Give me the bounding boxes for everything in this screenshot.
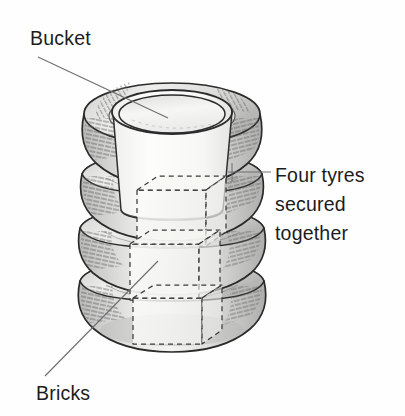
label-four-tyres-secured-together: Four tyres secured together (275, 161, 400, 248)
bricks (130, 176, 226, 344)
label-tyres-line-3: together (275, 219, 400, 248)
label-tyres-line-1: Four tyres (275, 161, 400, 190)
label-bucket: Bucket (30, 24, 91, 52)
label-bricks: Bricks (36, 379, 90, 407)
label-tyres-line-2: secured (275, 190, 400, 219)
brick-lower (133, 285, 222, 344)
diagram-figure: Bucket Bricks Four tyres secured togethe… (0, 0, 405, 416)
